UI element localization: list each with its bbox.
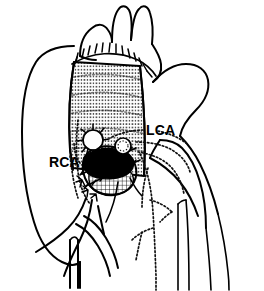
- aortic-root-replacement-diagram: RCA LCA: [0, 0, 264, 291]
- pulmonary-artery-outline: [150, 64, 229, 290]
- figure-container: RCA LCA: [0, 0, 264, 291]
- label-rca: RCA: [49, 154, 80, 170]
- label-lca: LCA: [146, 122, 175, 138]
- coronary-ostium-open: [115, 138, 131, 154]
- lower-left-vessel-branches: [36, 198, 118, 288]
